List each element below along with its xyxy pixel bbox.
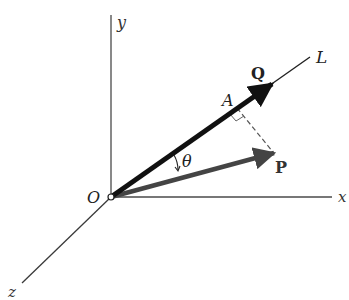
vector-Q xyxy=(111,84,272,197)
vector-Q-label: Q xyxy=(251,64,265,83)
vector-P-label: P xyxy=(275,158,287,177)
vector-P xyxy=(111,153,274,197)
x-axis-label: x xyxy=(338,188,347,206)
z-axis xyxy=(22,197,111,283)
projection-dashed-line xyxy=(237,108,273,152)
origin-label: O xyxy=(87,188,100,207)
theta-label: θ xyxy=(182,152,192,171)
z-axis-label: z xyxy=(7,283,16,300)
line-L-label: L xyxy=(315,47,327,67)
vector-projection-diagram: y x z O L Q A P θ xyxy=(0,0,349,300)
y-axis-label: y xyxy=(116,13,127,32)
origin-point xyxy=(108,194,114,200)
point-A-label: A xyxy=(220,91,234,110)
